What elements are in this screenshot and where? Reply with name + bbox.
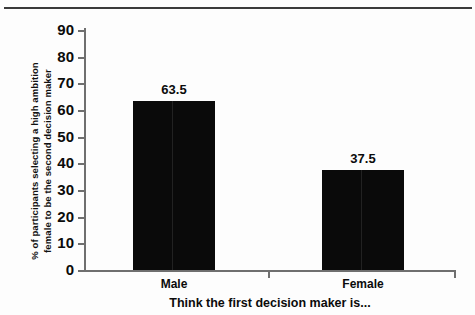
bar-value-female: 37.5 bbox=[322, 152, 404, 165]
y-tick-label-60: 60 bbox=[34, 102, 74, 117]
y-tick-70 bbox=[78, 83, 85, 85]
y-tick-40 bbox=[78, 163, 85, 165]
x-axis-line bbox=[84, 270, 456, 272]
x-axis-title: Think the first decision maker is... bbox=[84, 296, 456, 310]
y-tick-10 bbox=[78, 243, 85, 245]
y-tick-label-80: 80 bbox=[34, 49, 74, 64]
y-tick-50 bbox=[78, 137, 85, 139]
bar-male[interactable] bbox=[133, 101, 215, 270]
y-tick-60 bbox=[78, 110, 85, 112]
x-category-label-female: Female bbox=[322, 278, 404, 290]
bar-chart-figure: % of participants selecting a high ambit… bbox=[0, 0, 475, 315]
y-tick-label-0: 0 bbox=[34, 262, 74, 277]
y-tick-80 bbox=[78, 57, 85, 59]
y-tick-label-20: 20 bbox=[34, 209, 74, 224]
bar-female[interactable] bbox=[322, 170, 404, 270]
y-tick-0 bbox=[78, 270, 85, 272]
y-tick-20 bbox=[78, 217, 85, 219]
y-tick-label-40: 40 bbox=[34, 155, 74, 170]
x-tick-axis-end bbox=[454, 270, 456, 278]
y-tick-label-30: 30 bbox=[34, 182, 74, 197]
top-divider-rule bbox=[4, 7, 472, 9]
y-axis-line bbox=[84, 28, 86, 272]
y-tick-label-50: 50 bbox=[34, 129, 74, 144]
y-tick-label-70: 70 bbox=[34, 75, 74, 90]
y-tick-90 bbox=[78, 30, 85, 32]
y-tick-label-90: 90 bbox=[34, 22, 74, 37]
y-tick-label-10: 10 bbox=[34, 235, 74, 250]
x-category-label-male: Male bbox=[133, 278, 215, 290]
y-tick-30 bbox=[78, 190, 85, 192]
x-tick-category-separator bbox=[268, 270, 270, 278]
bar-value-male: 63.5 bbox=[133, 83, 215, 96]
